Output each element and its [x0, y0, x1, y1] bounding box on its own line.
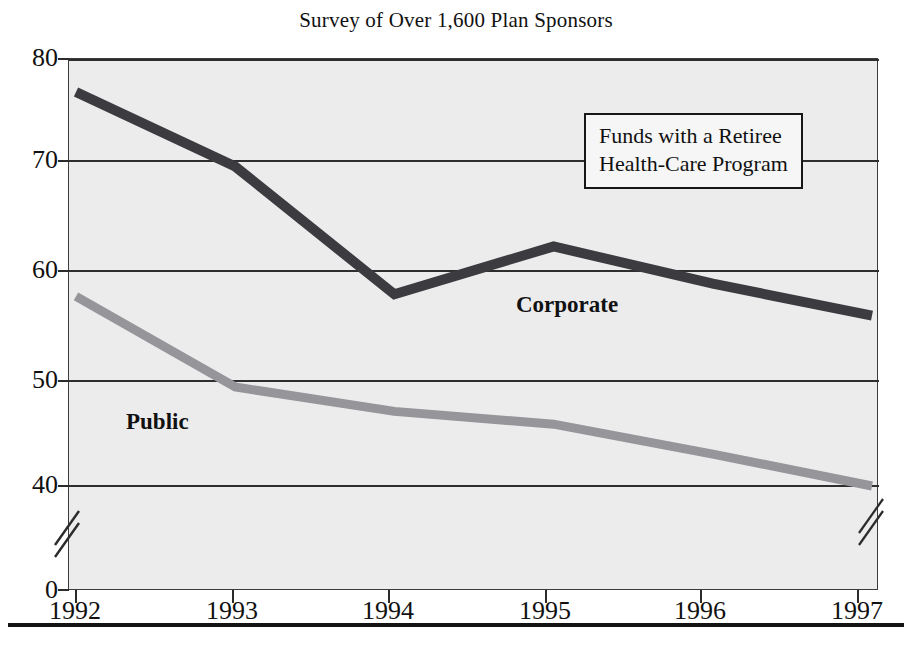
x-tick-label-1996: 1996	[655, 598, 745, 624]
y-tick-mark-40	[58, 485, 69, 487]
x-tick-label-1994: 1994	[343, 598, 433, 624]
annotation-line-1: Funds with a Retiree	[599, 122, 788, 150]
y-tick-label-80: 80	[0, 45, 58, 71]
axis-break-left-icon	[50, 505, 86, 561]
chart-figure: Survey of Over 1,600 Plan Sponsors 80	[0, 0, 912, 646]
x-tick-label-1993: 1993	[187, 598, 277, 624]
x-tick-label-1997: 1997	[812, 598, 902, 624]
axis-break-right-icon	[855, 491, 889, 561]
y-tick-mark-60	[58, 270, 69, 272]
y-tick-label-70: 70	[0, 147, 58, 173]
y-tick-mark-70	[58, 160, 69, 162]
y-tick-mark-50	[58, 380, 69, 382]
x-tick-label-1992: 1992	[30, 598, 120, 624]
x-tick-label-1995: 1995	[500, 598, 590, 624]
chart-title: Survey of Over 1,600 Plan Sponsors	[0, 8, 912, 33]
annotation-box: Funds with a Retiree Health-Care Program	[584, 113, 803, 189]
y-tick-label-50: 50	[0, 367, 58, 393]
y-tick-mark-80	[58, 58, 69, 60]
annotation-line-2: Health-Care Program	[599, 150, 788, 178]
series-line-public	[76, 296, 872, 486]
series-label-public: Public	[126, 409, 189, 435]
y-tick-label-40: 40	[0, 472, 58, 498]
series-label-corporate: Corporate	[516, 292, 618, 318]
y-tick-mark-0	[58, 589, 69, 591]
bottom-divider	[8, 623, 904, 627]
y-tick-label-60: 60	[0, 257, 58, 283]
